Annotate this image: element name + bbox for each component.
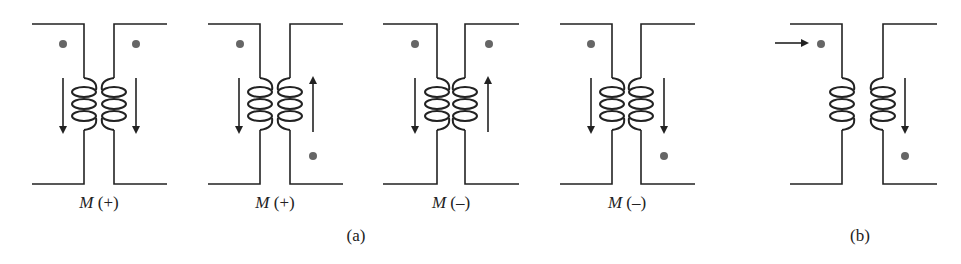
mutual-symbol: M: [608, 193, 622, 212]
panel-a3-label: M (–): [432, 193, 470, 213]
dot-icon: [309, 152, 317, 160]
primary-bottom-wire: [32, 130, 84, 184]
dot-icon: [59, 40, 67, 48]
dot-icon: [901, 152, 909, 160]
dot-icon: [411, 40, 419, 48]
primary-coil-icon: [248, 78, 272, 130]
transformer-panel-a4: [560, 24, 695, 184]
mutual-symbol: M: [255, 193, 269, 212]
primary-coil-icon: [72, 78, 96, 130]
sign: (+): [98, 193, 119, 212]
transformer-panel-a3: [383, 24, 519, 184]
dot-icon: [236, 40, 244, 48]
secondary-coil-icon: [278, 78, 302, 130]
sign: (+): [274, 193, 295, 212]
panel-a2-label: M (+): [255, 193, 294, 213]
secondary-top-wire: [114, 24, 167, 78]
secondary-coil-icon: [102, 78, 126, 130]
dot-icon: [660, 152, 668, 160]
dot-icon: [485, 40, 493, 48]
group-label-b: (b): [850, 226, 870, 246]
secondary-bottom-wire: [114, 130, 167, 184]
primary-top-wire: [32, 24, 84, 78]
primary-coil-icon: [425, 78, 449, 130]
panel-a1-label: M (+): [79, 193, 118, 213]
group-label-a: (a): [347, 226, 366, 246]
dot-icon: [132, 40, 140, 48]
mutual-symbol: M: [432, 193, 446, 212]
transformer-panel-a2: [208, 24, 343, 184]
transformer-panel-b: [775, 24, 937, 184]
secondary-coil-icon: [453, 78, 477, 130]
secondary-coil-icon: [871, 78, 895, 130]
secondary-coil-icon: [629, 78, 653, 130]
dot-icon: [587, 40, 595, 48]
sign: (–): [450, 193, 470, 212]
polarity-dots: [59, 40, 909, 160]
mutual-symbol: M: [79, 193, 93, 212]
primary-coil-icon: [600, 78, 624, 130]
mutual-inductance-dot-convention-diagram: [0, 0, 961, 264]
primary-coil-icon: [830, 78, 854, 130]
sign: (–): [626, 193, 646, 212]
transformer-panel-a1: [32, 24, 167, 184]
dot-icon: [817, 40, 825, 48]
panel-a4-label: M (–): [608, 193, 646, 213]
